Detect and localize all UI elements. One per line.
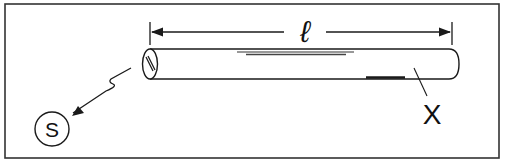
source-label: S xyxy=(45,118,59,141)
x-label: X xyxy=(423,99,442,130)
length-label: ℓ xyxy=(299,15,311,48)
diagram-frame xyxy=(5,4,499,158)
squiggle-path xyxy=(73,68,131,113)
tube xyxy=(143,49,460,79)
tube-outline xyxy=(150,49,459,79)
tube-diagram: ℓ X S xyxy=(0,0,506,167)
source-node: S xyxy=(35,112,69,146)
emission-arrow xyxy=(72,68,131,116)
dimension-right-arrowhead-icon xyxy=(439,28,451,37)
x-leader-line xyxy=(414,68,427,96)
dimension-left-arrowhead-icon xyxy=(151,28,163,37)
length-dimension: ℓ xyxy=(150,15,452,48)
